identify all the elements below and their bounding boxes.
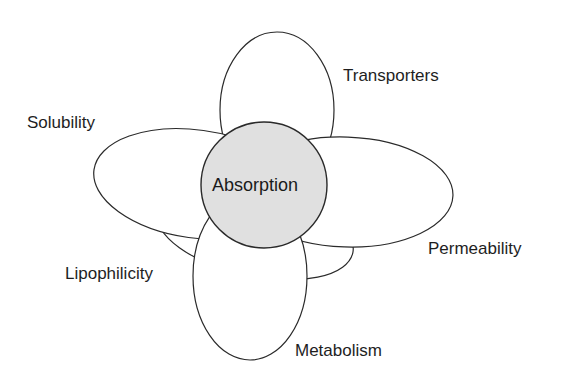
absorption-label: Absorption — [212, 176, 298, 194]
permeability-label: Permeability — [428, 240, 522, 257]
lipophilicity-label: Lipophilicity — [65, 265, 153, 282]
transporters-label: Transporters — [343, 67, 439, 84]
solubility-label: Solubility — [27, 114, 95, 131]
metabolism-label: Metabolism — [295, 342, 382, 359]
